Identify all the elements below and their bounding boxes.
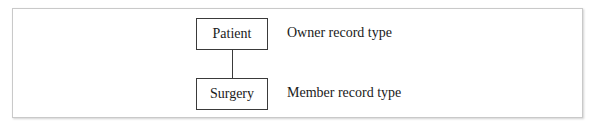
owner-record-box: Patient [196, 18, 268, 50]
member-record-label: Member record type [287, 85, 401, 101]
set-connector-line [232, 50, 233, 78]
owner-record-name: Patient [213, 26, 252, 42]
owner-record-label: Owner record type [287, 25, 392, 41]
member-record-name: Surgery [210, 86, 254, 102]
member-record-box: Surgery [196, 78, 268, 110]
